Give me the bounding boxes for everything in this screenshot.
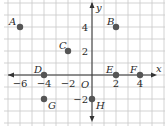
x-tick-label: −4	[37, 78, 52, 89]
x-tick-label: 4	[137, 78, 143, 89]
point-h	[89, 96, 95, 102]
point-label-e: E	[105, 64, 114, 75]
point-label-h: H	[95, 100, 105, 111]
x-axis-label: x	[156, 63, 162, 74]
point-a	[17, 24, 23, 30]
y-tick-label: −2	[73, 94, 88, 105]
point-label-g: G	[48, 100, 56, 111]
coordinate-plane: xyO −6−4−22442−2 ABCDEFGH	[0, 0, 165, 126]
point-g	[41, 96, 47, 102]
y-axis-down-arrow-icon	[90, 116, 95, 122]
x-tick-label: 2	[113, 78, 119, 89]
point-label-c: C	[59, 40, 67, 51]
origin-label: O	[81, 79, 89, 90]
point-label-a: A	[8, 16, 16, 27]
x-tick-label: −6	[13, 78, 28, 89]
y-axis-label: y	[95, 2, 102, 13]
point-e	[113, 72, 119, 78]
point-label-f: F	[129, 64, 138, 75]
x-tick-label: −2	[61, 78, 76, 89]
point-label-b: B	[106, 16, 114, 27]
point-f	[137, 72, 143, 78]
y-tick-label: 4	[82, 22, 88, 33]
x-axis-left-arrow-icon	[8, 73, 14, 78]
y-tick-label: 2	[82, 46, 88, 57]
point-label-d: D	[33, 64, 42, 75]
grid-lines	[4, 0, 165, 126]
